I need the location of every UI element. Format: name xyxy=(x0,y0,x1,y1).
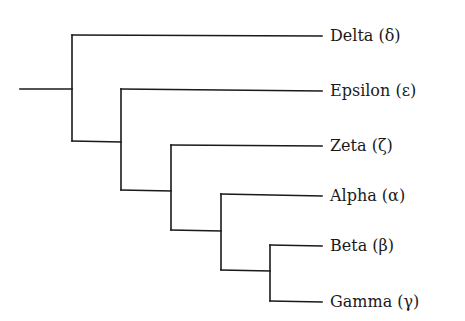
node1-to-node2 xyxy=(72,141,121,142)
branch-epsilon xyxy=(121,89,322,91)
leaf-label-beta: Beta (β) xyxy=(330,238,394,254)
phylogenetic-tree xyxy=(0,0,465,321)
leaf-label-gamma: Gamma (γ) xyxy=(330,294,419,310)
node3-to-node4 xyxy=(171,230,221,231)
branch-zeta xyxy=(171,145,322,146)
node4-to-node5 xyxy=(221,270,270,271)
branch-beta xyxy=(270,245,322,246)
leaf-label-zeta: Zeta (ζ) xyxy=(330,138,393,154)
leaf-label-alpha: Alpha (α) xyxy=(330,188,405,204)
node2-to-node3 xyxy=(121,190,171,191)
leaf-label-delta: Delta (δ) xyxy=(330,28,401,44)
leaf-label-epsilon: Epsilon (ε) xyxy=(330,83,416,99)
branch-gamma xyxy=(270,301,322,302)
branch-delta xyxy=(72,35,322,36)
branch-alpha xyxy=(221,194,322,196)
